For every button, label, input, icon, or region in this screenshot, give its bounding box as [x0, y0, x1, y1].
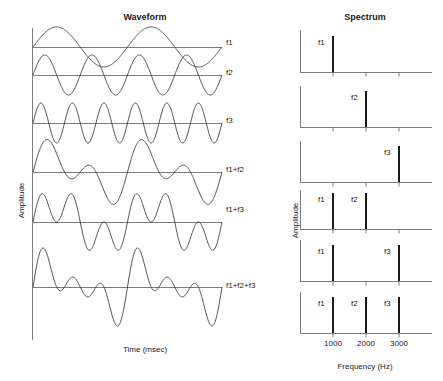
spectrum-peak-label: f1	[318, 247, 325, 256]
spectrum-tick-label: 3000	[383, 339, 415, 348]
spectrum-peak-label: f3	[384, 247, 391, 256]
spectrum-peak-label: f2	[351, 93, 358, 102]
waveform-trace-label: f1+f2+f3	[226, 281, 255, 290]
spectrum-peak-label: f2	[351, 195, 358, 204]
spectrum-peak-label: f3	[384, 148, 391, 157]
spectrum-peak-label: f1	[318, 299, 325, 308]
spectrum-tick-label: 1000	[317, 339, 349, 348]
spectrum-plot	[0, 0, 443, 381]
waveform-trace-label: f1+f3	[226, 205, 244, 214]
spectrum-panel-group	[300, 30, 432, 338]
waveform-trace-label: f3	[226, 116, 233, 125]
waveform-trace-label: f1+f2	[226, 165, 244, 174]
waveform-trace-label: f1	[226, 38, 233, 47]
waveform-trace-label: f2	[226, 68, 233, 77]
spectrum-tick-label: 2000	[350, 339, 382, 348]
spectrum-peak-label: f1	[318, 195, 325, 204]
spectrum-peak-label: f2	[351, 299, 358, 308]
spectrum-peak-label: f3	[384, 299, 391, 308]
figure-root: Waveform Spectrum Amplitude Amplitude Ti…	[0, 0, 443, 381]
spectrum-peak-label: f1	[318, 38, 325, 47]
